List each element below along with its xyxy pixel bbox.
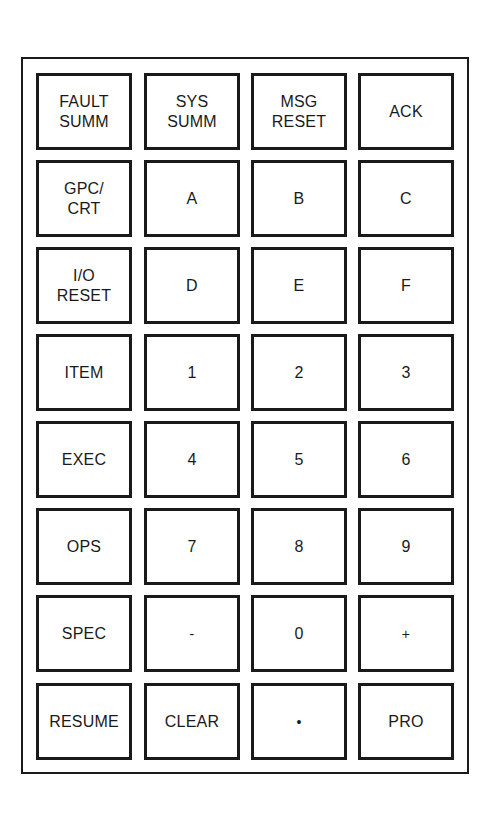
key-2-button[interactable]: 2 — [251, 334, 347, 411]
key-gpc-crt-button[interactable]: GPC/ CRT — [36, 160, 132, 237]
key-c-button[interactable]: C — [358, 160, 454, 237]
key-ack-button[interactable]: ACK — [358, 73, 454, 150]
key-8-button[interactable]: 8 — [251, 508, 347, 585]
key-5-button[interactable]: 5 — [251, 421, 347, 498]
key-6-button[interactable]: 6 — [358, 421, 454, 498]
key-i-o-reset-button[interactable]: I/O RESET — [36, 247, 132, 324]
key-b-button[interactable]: B — [251, 160, 347, 237]
key-9-button[interactable]: 9 — [358, 508, 454, 585]
key-exec-button[interactable]: EXEC — [36, 421, 132, 498]
key-f-button[interactable]: F — [358, 247, 454, 324]
key-a-button[interactable]: A — [144, 160, 240, 237]
key-msg-reset-button[interactable]: MSG RESET — [251, 73, 347, 150]
key-resume-button[interactable]: RESUME — [36, 683, 132, 760]
key-1-button[interactable]: 1 — [144, 334, 240, 411]
key-e-button[interactable]: E — [251, 247, 347, 324]
key-fault-summ-button[interactable]: FAULT SUMM — [36, 73, 132, 150]
key-4-button[interactable]: 4 — [144, 421, 240, 498]
key-sys-summ-button[interactable]: SYS SUMM — [144, 73, 240, 150]
key-plus-button[interactable]: + — [358, 595, 454, 672]
key-7-button[interactable]: 7 — [144, 508, 240, 585]
key-minus-button[interactable]: - — [144, 595, 240, 672]
key-clear-button[interactable]: CLEAR — [144, 683, 240, 760]
key-decimal-point-button[interactable]: • — [251, 683, 347, 760]
key-item-button[interactable]: ITEM — [36, 334, 132, 411]
key-d-button[interactable]: D — [144, 247, 240, 324]
key-3-button[interactable]: 3 — [358, 334, 454, 411]
key-ops-button[interactable]: OPS — [36, 508, 132, 585]
key-0-button[interactable]: 0 — [251, 595, 347, 672]
key-pro-button[interactable]: PRO — [358, 683, 454, 760]
key-spec-button[interactable]: SPEC — [36, 595, 132, 672]
